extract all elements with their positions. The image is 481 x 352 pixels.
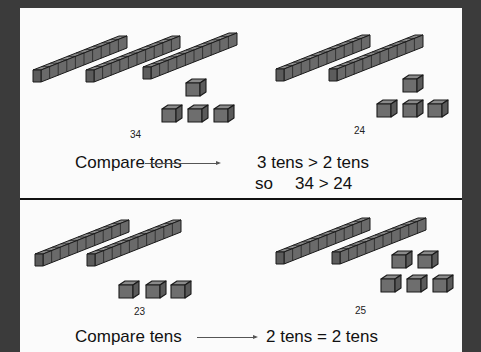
ones-cubes-23 bbox=[119, 281, 191, 298]
ones-cubes-24 bbox=[377, 75, 448, 117]
tens-rods-24 bbox=[276, 35, 423, 81]
number-label-23: 23 bbox=[134, 306, 145, 317]
compare-tens-label-bottom: Compare tens bbox=[75, 327, 182, 347]
tens-rods-34 bbox=[33, 33, 237, 82]
tens-comparison-top: 3 tens > 2 tens bbox=[257, 153, 369, 173]
conclusion-prefix: so bbox=[255, 174, 273, 194]
ones-cubes-25 bbox=[381, 251, 453, 292]
base-ten-blocks-illustration bbox=[0, 0, 481, 352]
tens-comparison-bottom: 2 tens = 2 tens bbox=[266, 327, 378, 347]
conclusion-statement: 34 > 24 bbox=[295, 174, 352, 194]
arrow-icon bbox=[197, 337, 256, 338]
tens-rods-23 bbox=[35, 220, 181, 266]
number-label-24: 24 bbox=[354, 125, 365, 136]
ones-cubes-34 bbox=[162, 79, 234, 122]
arrow-icon bbox=[145, 163, 219, 164]
section-divider bbox=[20, 198, 462, 200]
number-label-25: 25 bbox=[355, 305, 366, 316]
number-label-34: 34 bbox=[130, 129, 141, 140]
